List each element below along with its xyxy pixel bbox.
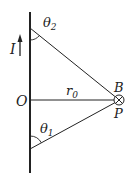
upper-line — [30, 28, 118, 99]
wire-field-diagram: I θ2 θ1 O r0 B P — [0, 0, 134, 185]
current-label: I — [9, 41, 16, 57]
theta1-arc — [30, 136, 41, 143]
theta2-arc — [30, 36, 39, 41]
field-into-page-icon — [114, 95, 124, 105]
theta2-label: θ2 — [43, 15, 57, 32]
point-label: P — [113, 106, 123, 121]
field-label: B — [113, 80, 124, 95]
origin-label: O — [16, 93, 28, 109]
r0-label: r0 — [66, 83, 78, 100]
current-arrow-icon — [18, 34, 23, 56]
theta1-label: θ1 — [40, 121, 54, 138]
diagram: I θ2 θ1 O r0 B P — [0, 0, 134, 185]
